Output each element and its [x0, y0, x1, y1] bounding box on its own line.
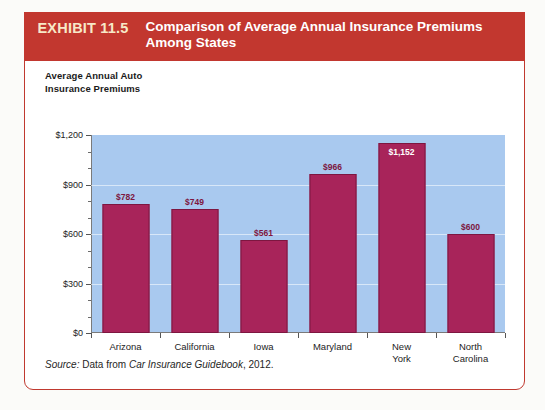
- bar-value-label: $1,152: [389, 147, 415, 157]
- y-axis-title-line2: Insurance Premiums: [45, 83, 142, 96]
- bar[interactable]: [378, 143, 425, 333]
- x-tick: [91, 333, 92, 338]
- bar-slot: $600: [436, 135, 505, 333]
- x-tick: [298, 333, 299, 338]
- bar-value-label: $561: [254, 228, 273, 238]
- plot-frame: $0$300$600$900$1,200 $782$749$561$966$1,…: [91, 135, 505, 333]
- x-tick: [229, 333, 230, 338]
- source-prefix: Source:: [45, 359, 79, 370]
- source-text: Data from: [79, 359, 128, 370]
- bar-slot: $749: [160, 135, 229, 333]
- exhibit-container: EXHIBIT 11.5 Comparison of Average Annua…: [24, 12, 525, 390]
- bar[interactable]: [102, 204, 149, 333]
- y-axis-title: Average Annual Auto Insurance Premiums: [45, 70, 142, 95]
- x-tick: [367, 333, 368, 338]
- bar-value-label: $782: [116, 192, 135, 202]
- x-tick-label: Arizona: [109, 341, 141, 353]
- x-tick-label: California: [174, 341, 214, 353]
- bar-value-label: $966: [323, 162, 342, 172]
- bar[interactable]: [309, 174, 356, 333]
- source-work: Car Insurance Guidebook: [129, 359, 243, 370]
- exhibit-title: Comparison of Average Annual Insurance P…: [146, 19, 501, 52]
- bar-slot: $966: [298, 135, 367, 333]
- bar-value-label: $749: [185, 197, 204, 207]
- x-tick-label: Iowa: [253, 341, 273, 353]
- bar[interactable]: [447, 234, 494, 333]
- y-tick-label: $600: [63, 229, 83, 239]
- x-tick: [160, 333, 161, 338]
- x-tick: [505, 333, 506, 338]
- x-tick-label: North Carolina: [453, 341, 488, 365]
- x-tick-label: Maryland: [313, 341, 352, 353]
- x-tick-label: New York: [392, 341, 411, 365]
- y-tick-label: $1,200: [55, 130, 83, 140]
- y-tick-label: $900: [63, 180, 83, 190]
- chart-body: Average Annual Auto Insurance Premiums $…: [25, 61, 523, 389]
- exhibit-header: EXHIBIT 11.5 Comparison of Average Annua…: [24, 12, 525, 61]
- x-tick: [436, 333, 437, 338]
- y-tick-label: $0: [73, 328, 83, 338]
- bar-slot: $561: [229, 135, 298, 333]
- source-note: Source: Data from Car Insurance Guideboo…: [45, 359, 274, 370]
- bar[interactable]: [171, 209, 218, 333]
- bar[interactable]: [240, 240, 287, 333]
- bar-slot: $1,152: [367, 135, 436, 333]
- y-tick-label: $300: [63, 279, 83, 289]
- source-suffix: , 2012.: [243, 359, 274, 370]
- exhibit-number: EXHIBIT 11.5: [38, 19, 129, 36]
- y-axis-title-line1: Average Annual Auto: [45, 70, 142, 83]
- bar-slot: $782: [91, 135, 160, 333]
- bar-value-label: $600: [461, 222, 480, 232]
